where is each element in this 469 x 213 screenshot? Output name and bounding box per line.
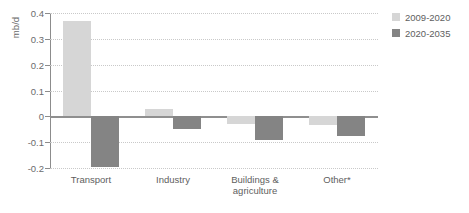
bar (255, 116, 283, 139)
bar (309, 116, 337, 125)
legend-swatch-icon (392, 29, 400, 37)
legend-item[interactable]: 2009-2020 (392, 9, 450, 25)
legend-item[interactable]: 2020-2035 (392, 25, 450, 41)
x-axis-label: Other* (287, 174, 387, 185)
gridline (50, 91, 378, 92)
gridline (50, 65, 378, 66)
bar (145, 109, 173, 117)
legend-swatch-icon (392, 13, 400, 21)
chart-figure: mb/d 0.40.30.20.10-0.1-0.2 TransportIndu… (0, 0, 469, 213)
legend-label: 2020-2035 (405, 28, 450, 39)
y-tick-label: -0.1 (0, 137, 44, 148)
plot-area (50, 13, 378, 168)
y-tick-label: 0.1 (0, 85, 44, 96)
y-tick-label: 0.3 (0, 33, 44, 44)
y-tick-label: 0.2 (0, 59, 44, 70)
legend: 2009-20202020-2035 (392, 9, 450, 41)
y-tick-label: 0.4 (0, 8, 44, 19)
gridline (50, 39, 378, 40)
legend-label: 2009-2020 (405, 12, 450, 23)
bar (91, 116, 119, 166)
bar (337, 116, 365, 135)
y-tick-label: 0 (0, 111, 44, 122)
gridline (50, 13, 378, 14)
bar (173, 116, 201, 129)
bar (227, 116, 255, 124)
y-tick-label: -0.2 (0, 163, 44, 174)
bar (63, 21, 91, 117)
gridline (50, 168, 378, 169)
